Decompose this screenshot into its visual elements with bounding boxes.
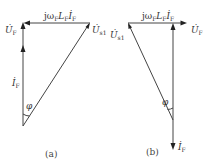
if-label-a: İF — [11, 77, 20, 89]
uf-arrowhead-b — [171, 23, 176, 30]
phasor-diagrams: U̇F U̇s1 İF φ jωFLFİF (a) U̇s1 U̇F İF φ … — [0, 0, 209, 164]
uf-label-b: U̇F — [191, 24, 203, 36]
jwl-arrowhead-a — [24, 21, 31, 26]
caption-a: (a) — [45, 149, 57, 159]
panel-b: U̇s1 U̇F İF φ jωFLFİF (b) — [110, 10, 203, 157]
jwl-label-b: jωFLFİF — [141, 10, 174, 22]
caption-b: (b) — [146, 147, 159, 157]
if-arrowhead-b — [171, 143, 176, 150]
us1-phasor-line-a — [23, 24, 89, 126]
jwl-label-a: jωFLFİF — [43, 10, 76, 22]
us1-label-a: U̇s1 — [92, 24, 107, 36]
phi-label-b: φ — [162, 97, 169, 107]
if-arrowhead-a — [21, 45, 26, 52]
phi-arc-a — [23, 114, 30, 116]
if-label-b: İF — [177, 141, 186, 153]
phi-label-a: φ — [26, 101, 33, 111]
us1-label-b: U̇s1 — [110, 29, 125, 41]
uf-label-a: U̇F — [5, 24, 17, 36]
panel-a: U̇F U̇s1 İF φ jωFLFİF (a) — [5, 10, 107, 159]
jwl-arrowhead-b — [181, 21, 188, 26]
